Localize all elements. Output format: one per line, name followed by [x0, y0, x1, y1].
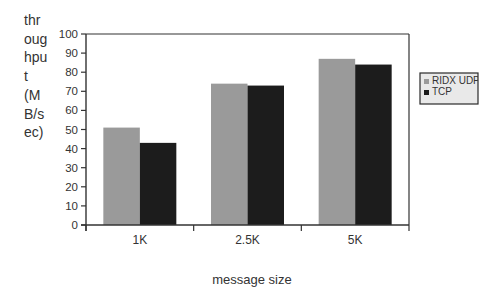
x-tick-label: 2.5K — [235, 233, 260, 247]
x-tick-label: 5K — [348, 233, 363, 247]
y-tick-label: 20 — [65, 181, 78, 193]
legend-swatch — [424, 79, 429, 84]
y-axis-ticks: 0102030405060708090100 — [59, 28, 86, 231]
x-tick-label: 1K — [132, 233, 147, 247]
y-tick-label: 50 — [65, 124, 78, 136]
legend-swatch — [424, 90, 429, 95]
bar-ridx-udp-1k — [103, 128, 140, 225]
bar-tcp-1k — [140, 143, 177, 225]
y-tick-label: 10 — [65, 200, 78, 212]
bar-ridx-udp-2.5k — [211, 84, 248, 225]
bar-tcp-2.5k — [248, 86, 285, 225]
y-tick-label: 90 — [65, 47, 78, 59]
x-axis-label: message size — [212, 272, 291, 287]
y-tick-label: 0 — [72, 219, 78, 231]
legend-label: RIDX UDP — [432, 75, 480, 86]
bar-ridx-udp-5k — [319, 59, 356, 225]
bar-chart: 0102030405060708090100 1K2.5K5K message … — [0, 0, 499, 297]
y-tick-label: 70 — [65, 85, 78, 97]
y-tick-label: 100 — [59, 28, 78, 40]
y-tick-label: 80 — [65, 66, 78, 78]
bar-tcp-5k — [355, 65, 392, 225]
y-tick-label: 40 — [65, 143, 78, 155]
y-tick-label: 60 — [65, 104, 78, 116]
legend: RIDX UDPTCP — [420, 73, 480, 104]
legend-label: TCP — [432, 86, 452, 97]
y-tick-label: 30 — [65, 162, 78, 174]
